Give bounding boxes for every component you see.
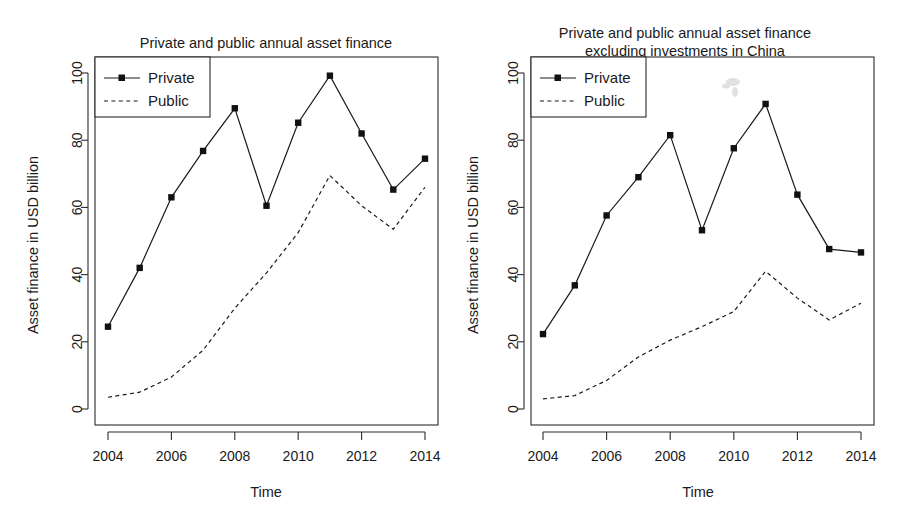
- left-legend: Private Public: [95, 57, 210, 117]
- series-line-private: [543, 104, 861, 334]
- left-chart-svg: Private and public annual asset finance …: [0, 0, 450, 518]
- data-point-marker-private-2009: [263, 203, 269, 209]
- right-legend: Private Public: [531, 57, 646, 117]
- data-point-marker-private-2007: [200, 148, 206, 154]
- left-y-axis: [81, 73, 88, 409]
- y-tick-label: 80: [505, 132, 521, 148]
- data-point-marker-private-2007: [635, 174, 641, 180]
- left-y-tick-labels: 020406080100: [69, 61, 85, 413]
- left-plot-series: [105, 72, 428, 397]
- left-legend-public-label: Public: [148, 92, 189, 109]
- right-chart-title-line1: Private and public annual asset finance: [559, 25, 811, 41]
- left-y-axis-label: Asset finance in USD billion: [25, 156, 41, 334]
- right-legend-private-label: Private: [584, 69, 631, 86]
- x-tick-label: 2006: [591, 448, 622, 464]
- data-point-marker-private-2004: [540, 331, 546, 337]
- data-point-marker-private-2004: [105, 323, 111, 329]
- data-point-marker-private-2011: [762, 101, 768, 107]
- y-tick-label: 80: [69, 132, 85, 148]
- left-legend-private-marker: [119, 75, 126, 82]
- data-point-marker-private-2014: [422, 155, 428, 161]
- x-tick-label: 2004: [92, 448, 123, 464]
- data-point-marker-private-2008: [232, 105, 238, 111]
- series-line-public: [543, 271, 861, 399]
- data-point-marker-private-2008: [667, 132, 673, 138]
- data-point-marker-private-2010: [731, 145, 737, 151]
- x-tick-label: 2012: [782, 448, 813, 464]
- right-legend-public-label: Public: [584, 92, 625, 109]
- left-chart-title: Private and public annual asset finance: [140, 35, 392, 51]
- y-tick-label: 60: [505, 199, 521, 215]
- left-x-axis-label: Time: [250, 484, 282, 500]
- left-x-axis: [108, 432, 425, 440]
- figure-two-panel-line-charts: Private and public annual asset finance …: [0, 0, 900, 518]
- data-point-marker-private-2012: [794, 191, 800, 197]
- x-tick-label: 2014: [409, 448, 440, 464]
- x-tick-label: 2010: [283, 448, 314, 464]
- right-chart-svg: Private and public annual asset finance …: [450, 0, 900, 518]
- y-tick-label: 60: [69, 199, 85, 215]
- y-tick-label: 0: [69, 405, 85, 413]
- y-tick-label: 0: [505, 405, 521, 413]
- x-tick-label: 2014: [845, 448, 876, 464]
- right-y-tick-labels: 020406080100: [505, 61, 521, 413]
- data-point-marker-private-2013: [826, 246, 832, 252]
- data-point-marker-private-2010: [295, 120, 301, 126]
- panel-left-asset-finance: Private and public annual asset finance …: [0, 0, 450, 518]
- x-tick-label: 2006: [156, 448, 187, 464]
- data-point-marker-private-2014: [858, 249, 864, 255]
- x-tick-label: 2004: [527, 448, 558, 464]
- right-plot-series: [540, 101, 864, 399]
- right-y-axis-label: Asset finance in USD billion: [465, 156, 481, 334]
- y-tick-label: 20: [505, 334, 521, 350]
- data-point-marker-private-2011: [327, 72, 333, 78]
- data-point-marker-private-2009: [699, 227, 705, 233]
- data-point-marker-private-2006: [603, 212, 609, 218]
- scan-artifact-smudge: [722, 78, 740, 97]
- x-tick-label: 2010: [718, 448, 749, 464]
- right-y-axis: [517, 73, 524, 409]
- right-legend-private-marker: [555, 75, 562, 82]
- y-tick-label: 40: [69, 267, 85, 283]
- data-point-marker-private-2006: [168, 194, 174, 200]
- data-point-marker-private-2012: [358, 130, 364, 136]
- y-tick-label: 100: [505, 61, 521, 85]
- panel-right-asset-finance-ex-china: Private and public annual asset finance …: [450, 0, 900, 518]
- x-tick-label: 2012: [346, 448, 377, 464]
- x-tick-label: 2008: [655, 448, 686, 464]
- y-tick-label: 20: [69, 334, 85, 350]
- data-point-marker-private-2013: [390, 186, 396, 192]
- right-x-tick-labels: 200420062008201020122014: [527, 448, 876, 464]
- data-point-marker-private-2005: [137, 265, 143, 271]
- x-tick-label: 2008: [219, 448, 250, 464]
- right-x-axis-label: Time: [682, 484, 714, 500]
- left-x-tick-labels: 200420062008201020122014: [92, 448, 440, 464]
- y-tick-label: 40: [505, 267, 521, 283]
- right-x-axis: [543, 432, 861, 440]
- y-tick-label: 100: [69, 61, 85, 85]
- data-point-marker-private-2005: [572, 282, 578, 288]
- left-legend-private-label: Private: [148, 69, 195, 86]
